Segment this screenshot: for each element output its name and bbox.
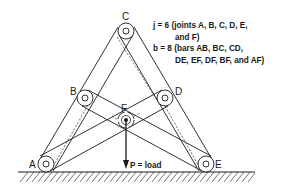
linkage-diagram: C B D F A E P = load j = 6 (joints A, B,… (0, 0, 296, 196)
joint-A (38, 156, 54, 172)
label-A: A (29, 159, 36, 170)
label-F: F (121, 103, 127, 114)
annotation-line-2: and F) (175, 33, 200, 42)
bar-DFA (40, 90, 168, 171)
label-B: B (70, 86, 77, 97)
annotation-line-3: b = 8 (bars AB, BC, CD, (153, 44, 243, 53)
joint-D (157, 90, 173, 106)
annotation-line-4: DE, EF, DF, BF, and AF) (175, 56, 265, 65)
load-label: P = load (130, 161, 161, 170)
ground (18, 172, 255, 182)
joint-B (77, 90, 93, 106)
annotation: j = 6 (joints A, B, C, D, E, and F) b = … (152, 21, 265, 65)
label-D: D (175, 86, 182, 97)
label-C: C (122, 11, 129, 22)
ground-hatching (20, 172, 255, 182)
annotation-line-1: j = 6 (joints A, B, C, D, E, (152, 21, 248, 30)
joint-C (118, 23, 134, 39)
joint-E (198, 156, 214, 172)
label-E: E (215, 159, 222, 170)
